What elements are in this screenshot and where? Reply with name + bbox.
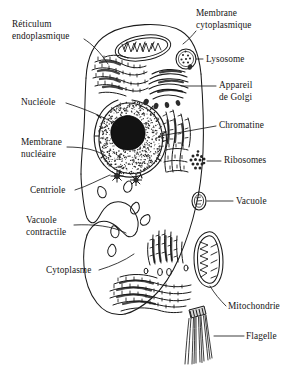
leader-cytoplasme: [99, 254, 134, 270]
label-reticulum-endoplasmique-line2: endoplasmique: [12, 31, 70, 41]
label-membrane-nucleaire-line1: Membrane: [21, 137, 62, 147]
label-appareil-de-golgi-line1: Appareil: [219, 80, 252, 90]
label-chromatine: Chromatine: [219, 120, 264, 131]
leader-nucleole: [66, 103, 118, 126]
label-ribosomes: Ribosomes: [224, 155, 266, 166]
flagelle-shape: [185, 306, 212, 364]
label-membrane-cytoplasmique-line2: cytoplasmique: [196, 20, 252, 30]
noyau-group: [94, 100, 166, 178]
mitochondrie-shape: [194, 232, 223, 287]
label-nucleole: Nucléole: [21, 97, 55, 108]
label-lysosome: Lysosome: [206, 54, 245, 65]
nucleole-shape: [111, 116, 145, 150]
label-cytoplasme: Cytoplasme: [46, 265, 91, 276]
label-flagelle: Flagelle: [246, 331, 277, 342]
label-vacuole-contractile-line1: Vacuole: [26, 215, 57, 225]
label-membrane-cytoplasmique-line1: Membrane: [196, 8, 237, 18]
appareil-de-golgi-shape: [142, 64, 193, 110]
vacuole-shape: [192, 192, 206, 210]
label-vacuole-contractile-line2: contractile: [26, 227, 66, 237]
label-vacuole-contractile: Vacuole contractile: [26, 215, 98, 238]
label-reticulum-endoplasmique: Réticulum endoplasmique: [12, 19, 102, 42]
label-membrane-cytoplasmique: Membrane cytoplasmique: [196, 8, 296, 31]
leader-mitochondrie: [210, 286, 226, 306]
label-mitochondrie: Mitochondrie: [228, 301, 280, 312]
reticulum-droit-shape: [163, 110, 190, 172]
cytoplasme-organelles: [110, 230, 191, 313]
vesicules-shape: [96, 180, 152, 257]
label-centriole: Centriole: [30, 185, 66, 196]
label-membrane-nucleaire-line2: nucléaire: [21, 149, 56, 159]
label-membrane-nucleaire: Membrane nucléaire: [21, 137, 91, 160]
mitochondrie-top-shape: [113, 31, 172, 64]
label-appareil-de-golgi: Appareil de Golgi: [219, 80, 297, 103]
leader-centriole: [75, 175, 110, 190]
label-appareil-de-golgi-line2: de Golgi: [219, 92, 252, 102]
lysosome-shape: [176, 49, 196, 69]
leader-membrane-cytoplasmique: [183, 31, 196, 44]
label-vacuole: Vacuole: [236, 196, 267, 207]
label-reticulum-endoplasmique-line1: Réticulum: [12, 19, 52, 29]
